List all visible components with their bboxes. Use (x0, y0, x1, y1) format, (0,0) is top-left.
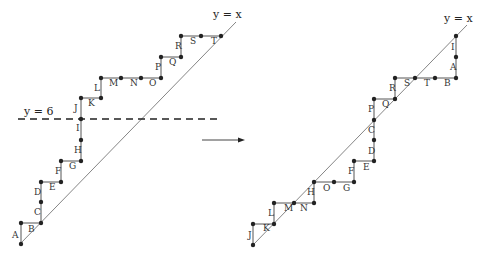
arrow-head-icon (238, 138, 245, 143)
step-label: A (449, 62, 457, 72)
vertex-dot (312, 180, 316, 184)
vertex-dot (372, 138, 376, 142)
vertex-dot (454, 55, 458, 59)
step-label: M (109, 78, 118, 88)
vertex-dot (332, 180, 336, 184)
lattice-path-transformation-diagram: ABCDEFGHIJKLMNOPQRST y = x y = 6 JKLMNHO… (0, 0, 478, 263)
step-label: A (11, 230, 19, 240)
diagonal-label: y = x (212, 8, 242, 21)
vertex-dot (433, 76, 437, 80)
transformation-arrow (202, 138, 245, 143)
step-label: L (94, 83, 100, 93)
vertex-dot (59, 159, 63, 163)
vertex-dot (39, 221, 43, 225)
diagonal-line-y-equals-x (20, 22, 236, 244)
step-label: Q (382, 99, 389, 109)
vertex-dot (79, 138, 83, 142)
dashed-line-label: y = 6 (23, 105, 53, 118)
step-label: E (363, 162, 370, 172)
vertex-dot (59, 180, 63, 184)
vertex-dot (99, 96, 103, 100)
step-label: M (284, 203, 293, 213)
step-label: D (34, 187, 41, 197)
step-label: J (247, 230, 252, 240)
vertex-dot (179, 55, 183, 59)
step-label: N (300, 203, 308, 213)
step-label: Q (169, 57, 176, 67)
vertex-dot (159, 76, 163, 80)
vertex-dot (454, 76, 458, 80)
step-label: T (211, 36, 217, 46)
step-label: F (55, 166, 61, 176)
vertex-dot (372, 159, 376, 163)
vertex-dot (19, 242, 23, 246)
step-label: B (444, 78, 451, 88)
step-label: C (34, 207, 41, 217)
vertex-dot (312, 201, 316, 205)
vertex-dot (413, 76, 417, 80)
step-label: F (348, 166, 354, 176)
vertex-dot (79, 159, 83, 163)
step-label: G (343, 183, 350, 193)
step-label: O (149, 78, 156, 88)
step-label: O (323, 183, 330, 193)
step-label: L (268, 208, 274, 218)
step-labels: JKLMNHOGFEDCPQRSTBAI (247, 42, 457, 240)
vertex-dot (393, 97, 397, 101)
vertex-dot (393, 76, 397, 80)
step-label: P (155, 62, 161, 72)
step-label: H (74, 145, 82, 155)
vertex-dot (199, 34, 203, 38)
step-label: T (424, 78, 430, 88)
vertex-dot (272, 222, 276, 226)
vertex-dot (272, 201, 276, 205)
vertex-dot (39, 180, 43, 184)
step-label: D (368, 146, 375, 156)
vertex-dot (372, 118, 376, 122)
step-label: K (263, 223, 270, 233)
step-label: J (73, 103, 78, 113)
vertex-dot (454, 34, 458, 38)
vertex-dot (139, 76, 143, 80)
step-labels: ABCDEFGHIJKLMNOPQRST (11, 36, 217, 240)
step-label: G (69, 161, 76, 171)
step-label: N (130, 78, 138, 88)
step-label: P (368, 104, 374, 114)
vertex-dot (352, 180, 356, 184)
step-label: I (76, 123, 80, 133)
step-label: B (28, 224, 35, 234)
vertex-dot (19, 221, 23, 225)
vertex-dot (159, 55, 163, 59)
vertex-dot (179, 34, 183, 38)
step-label: S (190, 36, 196, 46)
vertex-dot (251, 222, 255, 226)
vertex-dot (39, 200, 43, 204)
step-label: R (389, 83, 396, 93)
step-label: I (451, 42, 455, 52)
step-label: S (404, 78, 410, 88)
step-label: H (307, 187, 315, 197)
vertex-dot (79, 117, 83, 121)
step-label: E (49, 182, 56, 192)
vertex-dot (372, 97, 376, 101)
vertex-dot (79, 96, 83, 100)
step-label: C (368, 125, 375, 135)
vertex-dot (119, 76, 123, 80)
vertex-dot (352, 159, 356, 163)
vertex-dot (219, 34, 223, 38)
left-lattice-path: ABCDEFGHIJKLMNOPQRST y = x y = 6 (11, 8, 242, 246)
vertex-dot (251, 243, 255, 247)
step-label: R (175, 41, 182, 51)
step-label: K (88, 98, 95, 108)
vertex-dot (99, 76, 103, 80)
right-lattice-path: JKLMNHOGFEDCPQRSTBAI y = x (247, 12, 473, 247)
diagonal-label: y = x (443, 12, 473, 25)
